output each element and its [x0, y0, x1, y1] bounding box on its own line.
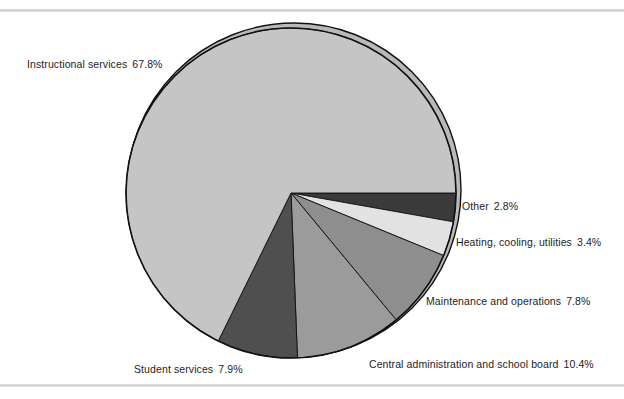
slice-label-name: Heating, cooling, utilities	[456, 236, 572, 248]
slice-label-central-administration: Central administration and school board1…	[369, 358, 594, 370]
slice-label-name: Other	[462, 200, 489, 212]
slice-label-value: 67.8%	[132, 58, 162, 70]
slice-label-value: 7.8%	[566, 295, 590, 307]
slice-label-value: 10.4%	[564, 358, 594, 370]
slice-label-value: 7.9%	[218, 363, 242, 375]
slice-label-name: Maintenance and operations	[426, 295, 561, 307]
slice-label-name: Central administration and school board	[369, 358, 559, 370]
slice-label-name: Student services	[134, 363, 213, 375]
slice-label-instructional-services: Instructional services67.8%	[27, 58, 163, 70]
slice-label-value: 2.8%	[494, 200, 518, 212]
slice-label-name: Instructional services	[27, 58, 127, 70]
slice-label-heating-cooling-utilities: Heating, cooling, utilities3.4%	[456, 236, 601, 248]
slice-label-maintenance-and-operations: Maintenance and operations7.8%	[426, 295, 590, 307]
slice-label-student-services: Student services7.9%	[134, 363, 243, 375]
pie-slice-group	[126, 28, 456, 358]
slice-label-other: Other2.8%	[462, 200, 518, 212]
pie-chart-page: Instructional services67.8% Other2.8% He…	[0, 0, 624, 399]
slice-label-value: 3.4%	[577, 236, 601, 248]
